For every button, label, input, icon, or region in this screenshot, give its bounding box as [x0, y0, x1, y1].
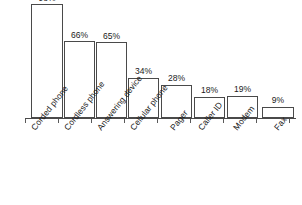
axis-tick — [223, 119, 224, 123]
plot-area: 98% 66% 65% 34% 28% 18% 19% 9% Corded ph… — [0, 0, 302, 205]
bar-chart: 98% 66% 65% 34% 28% 18% 19% 9% Corded ph… — [0, 0, 302, 205]
axis-tick — [91, 119, 92, 123]
axis-tick — [256, 119, 257, 123]
value-label-caller-id: 18% — [194, 85, 225, 95]
axis-tick — [124, 119, 125, 123]
axis-tick — [58, 119, 59, 123]
axis-tick — [157, 119, 158, 123]
axis-tick — [190, 119, 191, 123]
value-label-modem: 19% — [227, 84, 258, 94]
value-label-cellular-phone: 34% — [128, 66, 159, 76]
value-label-answering-device: 65% — [96, 31, 127, 41]
axis-tick — [289, 119, 290, 123]
value-label-corded-phone: 98% — [31, 0, 63, 3]
value-label-pager: 28% — [161, 73, 192, 83]
value-label-fax: 9% — [262, 95, 294, 105]
value-label-cordless-phone: 66% — [64, 30, 95, 40]
axis-tick — [25, 119, 26, 123]
